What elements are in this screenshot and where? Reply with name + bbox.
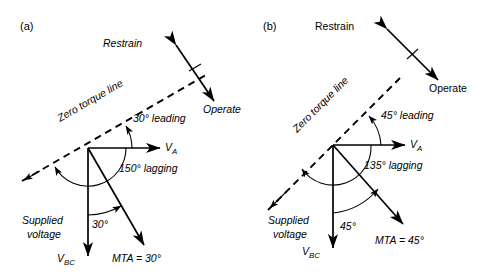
mta-label-a: MTA = 30° [112, 252, 161, 264]
supplied-voltage-label-b-line2: voltage [273, 228, 307, 240]
supplied-voltage-label-b-line1: Supplied [268, 214, 310, 226]
leading-angle-arc-a [126, 126, 132, 148]
va-label-a: VA [165, 141, 177, 156]
leading-angle-label-b: 45° leading [381, 109, 434, 121]
operate-label-a: Operate [203, 103, 241, 115]
figure-canvas: (a) Restrain Operate Zero torque line 30… [0, 0, 491, 279]
operate-label-b: Operate [429, 82, 467, 94]
vbc-label-a: VBC [57, 252, 75, 267]
zero-torque-line-label-a: Zero torque line [54, 76, 125, 124]
mta-inner-angle-label-a: 30° [92, 218, 108, 230]
panel-b: (b) Restrain Operate Zero torque line 45… [263, 20, 467, 260]
va-label-b: VA [410, 138, 422, 153]
zero-torque-line-a-arrow [24, 171, 40, 180]
restrain-label-b: Restrain [315, 20, 354, 32]
panel-b-label: (b) [263, 20, 276, 32]
vbc-label-b: VBC [302, 245, 320, 260]
mta-inner-angle-arc-b [333, 189, 378, 213]
leading-angle-label-a: 30° leading [133, 112, 186, 124]
mta-inner-angle-label-b: 45° [340, 220, 356, 232]
panel-a: (a) Restrain Operate Zero torque line 30… [20, 20, 241, 267]
lagging-angle-label-a: 150° lagging [119, 162, 178, 174]
restrain-operate-axis [176, 45, 214, 101]
zero-torque-line-label-b: Zero torque line [289, 74, 350, 135]
phasor-diagram-svg: (a) Restrain Operate Zero torque line 30… [0, 0, 491, 279]
supplied-voltage-label-a-line2: voltage [27, 228, 61, 240]
mta-inner-angle-arc-a [88, 206, 121, 215]
panel-a-label: (a) [20, 20, 33, 32]
leading-angle-arc-b [369, 116, 381, 145]
mta-label-b: MTA = 45° [375, 234, 424, 246]
restrain-label-a: Restrain [103, 37, 142, 49]
zero-torque-line-b-arrow [270, 192, 286, 208]
mta-vector-b [333, 145, 403, 224]
supplied-voltage-label-a-line1: Supplied [22, 214, 64, 226]
lagging-angle-label-b: 135° lagging [364, 159, 423, 171]
